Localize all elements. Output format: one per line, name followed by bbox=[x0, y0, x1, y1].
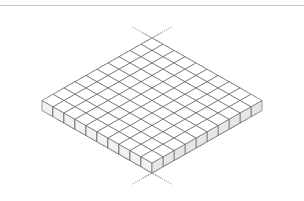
isometric-cube-grid bbox=[0, 0, 304, 201]
cube-grid bbox=[42, 38, 262, 173]
